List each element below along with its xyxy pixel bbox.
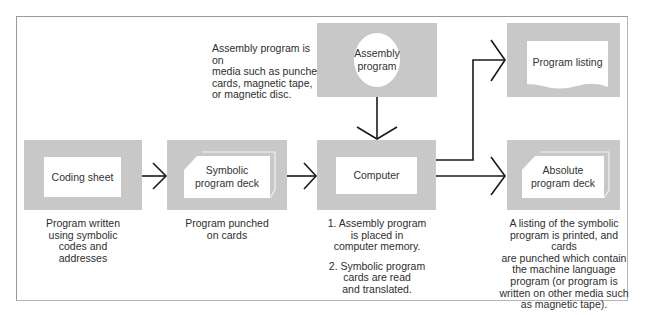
assembly-media-caption: Assembly program is on media such as pun…: [212, 43, 324, 101]
symbolic-deck-caption: Program punched on cards: [167, 218, 287, 241]
coding-sheet-caption: Program written using symbolic codes and…: [24, 218, 142, 264]
absolute-deck-node: Absolute program deck: [507, 140, 620, 210]
node-label: Program listing: [532, 56, 602, 69]
assembly-program-node: Assembly program: [317, 23, 437, 97]
computer-icon: Computer: [336, 157, 417, 194]
absolute-deck-caption: A listing of the symbolic program is pri…: [497, 218, 631, 311]
caption-text: A listing of the symbolic program is pri…: [497, 218, 631, 311]
node-label: Coding sheet: [52, 171, 114, 184]
coding-sheet-icon: Coding sheet: [44, 157, 121, 197]
node-label: Computer: [353, 169, 399, 182]
caption-text: Assembly program is on media such as pun…: [212, 43, 324, 101]
caption-step-2: 2. Symbolic program cards are read and t…: [312, 261, 442, 296]
computer-caption: 1. Assembly program is placed in compute…: [312, 218, 442, 296]
caption-text: Program punched on cards: [167, 218, 287, 241]
node-label-wrap: Program listing: [527, 41, 608, 83]
symbolic-deck-node: Symbolic program deck: [167, 140, 287, 210]
computer-node: Computer: [317, 140, 436, 210]
node-label: Absolute program deck: [531, 164, 595, 190]
program-listing-node: Program listing: [507, 23, 620, 97]
caption-text: Program written using symbolic codes and…: [24, 218, 142, 264]
caption-step-1: 1. Assembly program is placed in compute…: [312, 218, 442, 253]
node-label: Assembly program: [354, 47, 400, 73]
magnetic-tape-reel-icon: Assembly program: [354, 33, 400, 87]
node-label-wrap: Symbolic program deck: [184, 156, 270, 198]
coding-sheet-node: Coding sheet: [24, 140, 142, 210]
node-label: Symbolic program deck: [195, 164, 259, 190]
node-label-wrap: Absolute program deck: [522, 156, 604, 198]
